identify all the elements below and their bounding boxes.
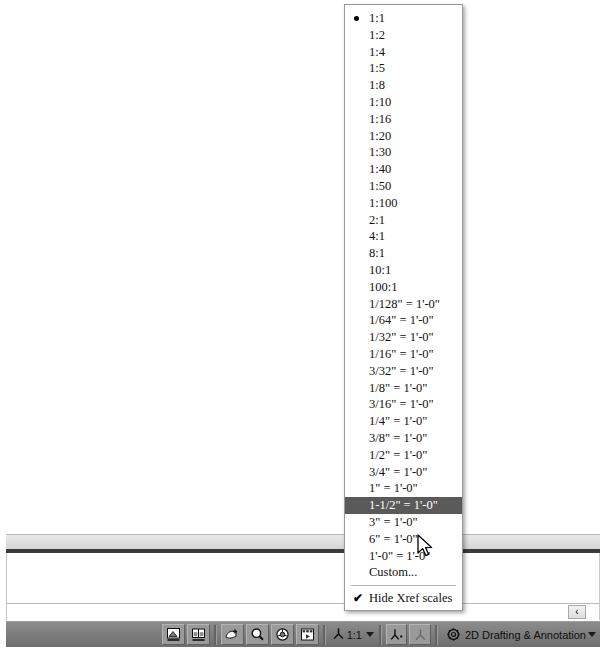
menu-item-label: 1:2 (369, 28, 385, 42)
status-bar: 1:1 2D Drafting & Annotation (6, 621, 600, 647)
menu-item-label: 1:5 (369, 61, 385, 75)
selected-bullet-icon (354, 16, 359, 21)
menu-item-scale[interactable]: 1:8 (345, 77, 462, 94)
menu-item-scale[interactable]: 1-1/2" = 1'-0" (345, 497, 462, 514)
drawing-canvas[interactable] (0, 0, 606, 534)
menu-item-scale[interactable]: 1:5 (345, 60, 462, 77)
status-bar-separator-1 (214, 625, 217, 645)
workspace-switcher[interactable]: 2D Drafting & Annotation (443, 624, 600, 645)
workspace-label: 2D Drafting & Annotation (465, 629, 586, 641)
magnifier-icon (250, 627, 265, 642)
menu-item-scale[interactable]: 3/8" = 1'-0" (345, 430, 462, 447)
menu-item-scale[interactable]: 3/4" = 1'-0" (345, 464, 462, 481)
menu-item-scale[interactable]: 1/32" = 1'-0" (345, 329, 462, 346)
menu-item-scale[interactable]: 1/16" = 1'-0" (345, 346, 462, 363)
menu-item-scale[interactable]: 1:30 (345, 144, 462, 161)
chevron-down-icon[interactable] (366, 632, 374, 637)
checkmark-icon: ✔ (353, 590, 363, 607)
menu-item-scale[interactable]: 4:1 (345, 228, 462, 245)
menu-item-scale[interactable]: 1:1 (345, 10, 462, 27)
menu-item-label: 3/32" = 1'-0" (369, 364, 434, 378)
menu-item-label: 3" = 1'-0" (369, 515, 418, 529)
menu-item-label: 6" = 1'-0" (369, 532, 418, 546)
menu-item-scale[interactable]: 1/2" = 1'-0" (345, 447, 462, 464)
menu-item-label: Custom... (369, 565, 417, 579)
gear-icon (443, 624, 465, 645)
menu-item-label: 3/4" = 1'-0" (369, 465, 427, 479)
menu-item-scale[interactable]: 1/128" = 1'-0" (345, 296, 462, 313)
menu-item-label: Hide Xref scales (369, 591, 452, 605)
menu-item-scale[interactable]: 1:50 (345, 178, 462, 195)
annotation-scale-menu-list: 1:11:21:41:51:81:101:161:201:301:401:501… (345, 10, 462, 581)
menu-item-label: 1" = 1'-0" (369, 481, 418, 495)
status-bar-separator-3 (379, 625, 382, 645)
menu-item-label: 1:4 (369, 45, 385, 59)
menu-item-scale[interactable]: 1:16 (345, 111, 462, 128)
annotation-scale-control[interactable]: 1:1 (329, 624, 376, 645)
menu-item-scale[interactable]: 1/64" = 1'-0" (345, 312, 462, 329)
menu-item-label: 1:8 (369, 78, 385, 92)
workspace-chevron-down-icon[interactable] (588, 632, 596, 637)
menu-item-label: 1'-0" = 1'-0" (369, 549, 430, 563)
menu-item-label: 3/8" = 1'-0" (369, 431, 427, 445)
menu-item-scale[interactable]: 1/4" = 1'-0" (345, 413, 462, 430)
annotation-autoscale-button[interactable] (409, 624, 431, 645)
menu-separator (351, 585, 456, 586)
menu-item-scale[interactable]: Custom... (345, 564, 462, 581)
command-window[interactable] (6, 553, 600, 603)
quick-view-layouts-button[interactable] (221, 624, 244, 645)
menu-item-scale[interactable]: 1:10 (345, 94, 462, 111)
menu-item-label: 1:40 (369, 162, 391, 176)
menu-item-scale[interactable]: 3/32" = 1'-0" (345, 363, 462, 380)
annotation-scale-value: 1:1 (347, 629, 362, 641)
menu-item-scale[interactable]: 1:4 (345, 44, 462, 61)
menu-item-label: 3/16" = 1'-0" (369, 397, 434, 411)
menu-item-scale[interactable]: 1:100 (345, 195, 462, 212)
annotation-scale-menu[interactable]: 1:11:21:41:51:81:101:161:201:301:401:501… (344, 4, 463, 611)
menu-item-scale[interactable]: 3/16" = 1'-0" (345, 396, 462, 413)
menu-item-label: 100:1 (369, 280, 397, 294)
menu-item-scale[interactable]: 100:1 (345, 279, 462, 296)
menu-item-label: 1:100 (369, 196, 397, 210)
command-input[interactable] (9, 605, 563, 621)
menu-item-label: 1/8" = 1'-0" (369, 381, 427, 395)
menu-item-label: 1-1/2" = 1'-0" (369, 498, 438, 512)
menu-item-scale[interactable]: 1:40 (345, 161, 462, 178)
menu-item-scale[interactable]: 1/8" = 1'-0" (345, 380, 462, 397)
menu-item-scale[interactable]: 1:2 (345, 27, 462, 44)
zoom-realtime-button[interactable] (271, 624, 294, 645)
layout-space-icon (191, 627, 206, 642)
menu-item-scale[interactable]: 10:1 (345, 262, 462, 279)
annotation-visibility-button[interactable] (386, 624, 408, 645)
menu-item-scale[interactable]: 3" = 1'-0" (345, 514, 462, 531)
annotation-visibility-icon (389, 627, 404, 642)
status-bar-separator-2 (323, 625, 326, 645)
menu-item-label: 1/4" = 1'-0" (369, 414, 427, 428)
toolbar-band (6, 534, 600, 550)
menu-item-scale[interactable]: 8:1 (345, 245, 462, 262)
menu-item-label: 1:10 (369, 95, 391, 109)
menu-item-label: 1/16" = 1'-0" (369, 347, 434, 361)
menu-item-scale[interactable]: 1'-0" = 1'-0" (345, 548, 462, 565)
command-history-text (7, 553, 599, 601)
status-bar-separator-4 (435, 625, 438, 645)
status-bar-left-spacer (6, 622, 161, 647)
menu-item-scale[interactable]: 1" = 1'-0" (345, 480, 462, 497)
menu-item-label: 1/2" = 1'-0" (369, 448, 427, 462)
menu-item-scale[interactable]: 1:20 (345, 128, 462, 145)
menu-item-scale[interactable]: 6" = 1'-0" (345, 531, 462, 548)
model-space-button[interactable] (162, 624, 185, 645)
menu-item-label: 10:1 (369, 263, 391, 277)
menu-item-hide-xref-scales[interactable]: ✔ Hide Xref scales (345, 590, 462, 607)
pan-realtime-button[interactable] (246, 624, 269, 645)
menu-item-label: 1:1 (369, 11, 385, 25)
menu-item-scale[interactable]: 2:1 (345, 212, 462, 229)
menu-item-label: 1/64" = 1'-0" (369, 313, 434, 327)
scroll-left-button[interactable]: ‹ (568, 605, 586, 619)
model-space-icon (166, 627, 181, 642)
command-input-row[interactable]: ‹ (6, 603, 600, 620)
layout-space-button[interactable] (187, 624, 210, 645)
showmotion-button[interactable] (296, 624, 319, 645)
menu-item-label: 1:16 (369, 112, 391, 126)
menu-item-label: 1:50 (369, 179, 391, 193)
